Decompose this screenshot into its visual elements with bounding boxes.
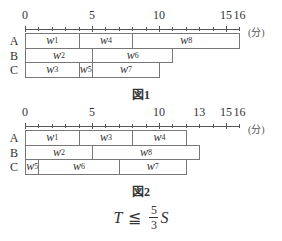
task-w5: w5 [25,159,39,175]
task-subscript: 8 [148,148,152,157]
task-subscript: 6 [81,162,85,171]
task-w4: w4 [79,33,134,49]
task-w6: w6 [92,48,173,64]
axis-tick [172,27,173,31]
task-name: w [46,130,54,145]
axis-tick [92,26,93,32]
task-w8: w8 [132,33,240,49]
fraction: 5 3 [149,204,158,231]
task-w1: w1 [25,130,80,146]
row-label-C: C [8,63,20,78]
figure-2-caption: 図2 [0,182,282,200]
task-subscript: 2 [61,51,65,60]
fraction-numerator: 5 [151,204,157,216]
task-name: w [127,48,135,63]
task-subscript: 4 [161,133,165,142]
task-name: w [46,62,54,77]
task-name: w [120,62,128,77]
task-w7: w7 [119,159,187,175]
axis-tick [159,26,160,32]
axis-tick [65,27,66,31]
formula-rhs: S [160,209,168,227]
axis-tick-label: 16 [233,106,245,118]
task-name: w [46,33,54,48]
axis-tick [226,123,227,129]
axis-tick-label: 0 [22,106,28,118]
task-w3: w3 [79,130,134,146]
row-label-C: C [8,160,20,175]
task-subscript: 1 [54,133,58,142]
row-label-A: A [8,34,20,49]
row-label-A: A [8,131,20,146]
axis-tick [132,27,133,31]
axis-tick-label: 15 [220,106,232,118]
axis-tick [213,27,214,31]
axis-tick [186,27,187,31]
task-subscript: 2 [61,148,65,157]
axis-tick-label: 5 [89,9,95,21]
axis-tick-label: 16 [233,9,245,21]
task-name: w [53,48,61,63]
axis-tick [119,27,120,31]
axis-tick [119,124,120,128]
task-subscript: 3 [108,133,112,142]
axis-tick [199,27,200,31]
task-w6: w6 [38,159,119,175]
axis-tick-label: 15 [220,9,232,21]
axis-tick [52,124,53,128]
axis-tick-label: 13 [193,106,205,118]
task-name: w [180,33,188,48]
task-subscript: 3 [54,65,58,74]
axis-tick [25,123,26,129]
axis-unit-label: (分) [248,24,265,39]
axis-tick [199,124,200,128]
axis-tick-label: 0 [22,9,28,21]
axis-tick-label: 5 [89,106,95,118]
axis-tick [172,124,173,128]
task-name: w [26,159,34,174]
axis-tick [92,123,93,129]
task-w5: w5 [79,62,93,78]
task-subscript: 6 [135,51,139,60]
task-name: w [140,145,148,160]
axis-tick [38,124,39,128]
axis-tick [25,26,26,32]
task-name: w [100,130,108,145]
task-w8: w8 [92,145,200,161]
task-subscript: 7 [155,162,159,171]
axis-tick [79,124,80,128]
axis-tick [132,124,133,128]
axis-tick [186,124,187,128]
task-w1: w1 [25,33,80,49]
axis-tick-label: 10 [153,106,165,118]
row-label-B: B [8,146,20,161]
task-subscript: 7 [128,65,132,74]
axis-tick [65,124,66,128]
axis-tick [239,27,240,31]
task-w7: w7 [92,62,160,78]
axis-tick [159,123,160,129]
axis-tick [213,124,214,128]
task-name: w [153,130,161,145]
task-w2: w2 [25,48,93,64]
task-name: w [80,62,88,77]
figure-1-caption: 図1 [0,85,282,103]
axis-tick [146,27,147,31]
task-w3: w3 [25,62,80,78]
axis-tick [146,124,147,128]
axis-tick [105,124,106,128]
task-subscript: 8 [188,36,192,45]
formula-lhs: T [114,209,123,227]
task-name: w [53,145,61,160]
task-w2: w2 [25,145,93,161]
inequality-formula: T ≦ 5 3 S [0,204,282,231]
task-w4: w4 [132,130,187,146]
axis-tick-label: 10 [153,9,165,21]
fraction-denominator: 3 [151,219,157,231]
task-subscript: 1 [54,36,58,45]
formula-operator: ≦ [128,208,141,227]
axis-tick [38,27,39,31]
axis-tick [105,27,106,31]
axis-tick [52,27,53,31]
task-name: w [100,33,108,48]
